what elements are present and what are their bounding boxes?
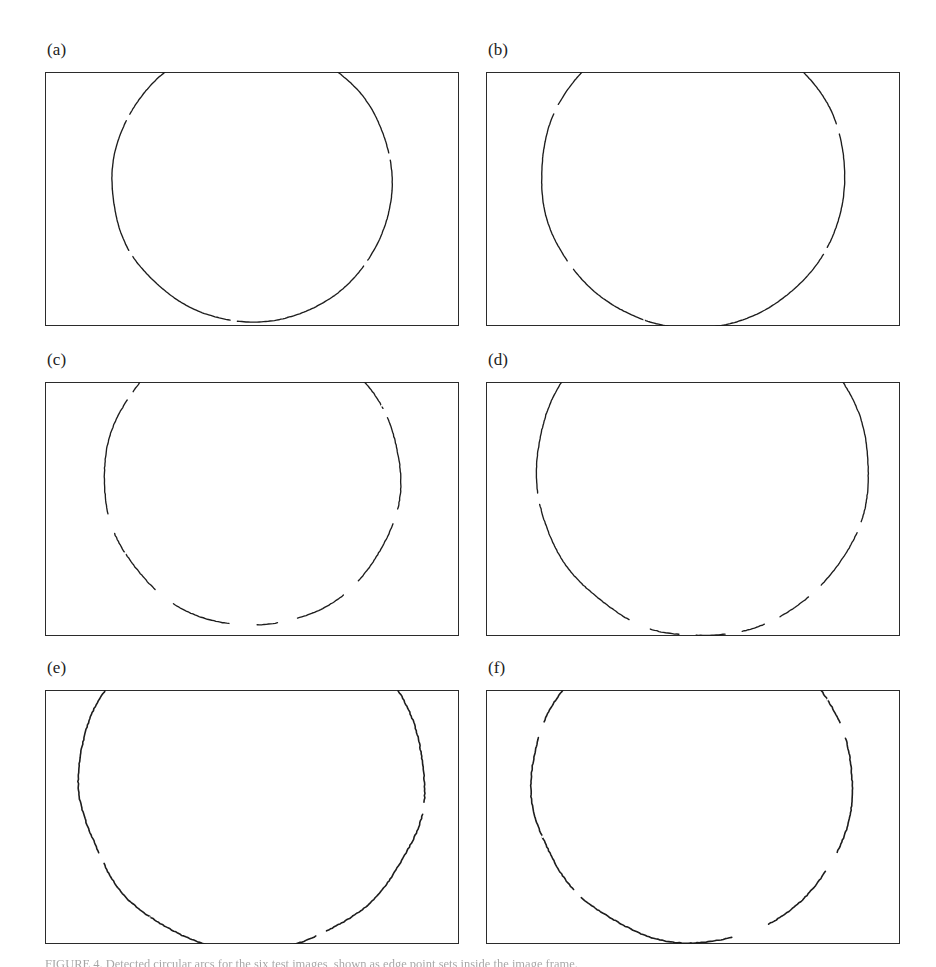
arc-segment — [531, 738, 574, 890]
arc-segment — [237, 266, 363, 322]
arc-break — [541, 836, 543, 838]
arc-segment — [298, 595, 344, 618]
panel-label-d: (d) — [488, 351, 508, 368]
arc-segment — [130, 72, 209, 114]
arc-segment — [650, 629, 679, 634]
arc-break — [149, 916, 151, 918]
arc-plot-f — [486, 690, 900, 944]
arc-segment — [742, 624, 764, 631]
arc-segment — [837, 738, 852, 852]
panel-label-a: (a) — [47, 41, 66, 58]
panel-b: (b) — [486, 72, 900, 326]
arc-segment — [368, 160, 393, 260]
arc-break — [124, 552, 126, 554]
panel-e: (e) — [45, 690, 459, 944]
arc-segment — [544, 690, 628, 722]
panel-label-e: (e) — [47, 659, 66, 676]
arc-segment — [104, 863, 316, 944]
arc-segment — [839, 382, 868, 522]
arc-segment — [558, 72, 636, 104]
arc-segment — [133, 382, 201, 392]
panel-f: (f) — [486, 690, 900, 944]
arc-plot-a — [45, 72, 459, 326]
arc-segment — [78, 690, 126, 853]
arc-segment — [581, 898, 731, 944]
arc-segment — [737, 690, 840, 723]
arc-segment — [693, 254, 823, 326]
arc-segment — [298, 382, 383, 408]
arc-plot-b — [486, 72, 900, 326]
figure-caption: FIGURE 4. Detected circular arcs for the… — [45, 957, 897, 967]
arc-segment — [574, 269, 683, 326]
arc-segment — [821, 533, 857, 586]
panel-d: (d) — [486, 382, 900, 636]
arc-segment — [540, 505, 629, 620]
panel-label-f: (f) — [488, 659, 505, 676]
arc-segment — [173, 604, 229, 624]
arc-segment — [295, 72, 388, 153]
panel-label-b: (b) — [488, 41, 508, 58]
panel-a: (a) — [45, 72, 459, 326]
arc-segment — [115, 533, 155, 589]
arc-segment — [387, 418, 400, 509]
arc-break — [826, 699, 828, 701]
arc-segment — [358, 524, 393, 581]
arc-plot-d — [486, 382, 900, 636]
arc-segment — [769, 871, 826, 924]
arc-plot-c — [45, 382, 459, 636]
arc-segment — [327, 814, 423, 931]
arc-segment — [293, 690, 425, 802]
arc-break — [381, 405, 383, 407]
figure-root: (a) (b) (c) (d) (e) (f) FIGURE 4. Detect… — [0, 0, 936, 967]
arc-segment — [827, 134, 844, 247]
arc-segment — [112, 121, 129, 251]
arc-segment — [780, 597, 808, 617]
panel-c: (c) — [45, 382, 459, 636]
arc-segment — [133, 256, 230, 320]
arc-segment — [745, 72, 836, 124]
arc-break — [643, 319, 645, 321]
arc-plot-e — [45, 690, 459, 944]
arc-segment — [257, 623, 277, 625]
arc-segment — [536, 382, 609, 493]
arc-segment — [696, 634, 725, 635]
arc-segment — [542, 114, 568, 261]
arc-segment — [104, 400, 127, 514]
panel-label-c: (c) — [47, 351, 66, 368]
